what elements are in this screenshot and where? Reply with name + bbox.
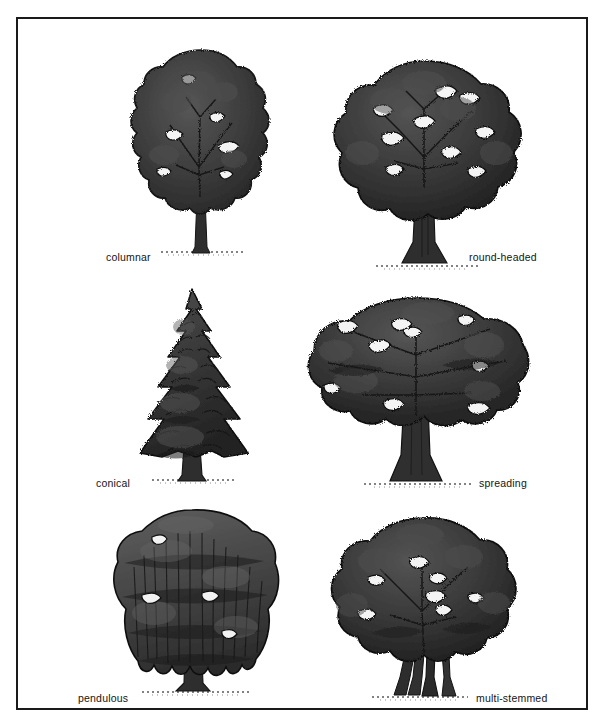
- tree-figure-multi-stemmed: [314, 515, 536, 707]
- tree-label-round-headed: round-headed: [469, 251, 537, 263]
- tree-label-columnar: columnar: [106, 251, 151, 263]
- conical-tree-drawing: [96, 287, 292, 495]
- spreading-tree-drawing: [292, 295, 532, 497]
- crown-foliage: [332, 518, 516, 661]
- tree-figure-round-headed: [318, 57, 536, 277]
- ground-line: [372, 697, 468, 700]
- tree-figure-pendulous: [76, 507, 308, 705]
- crown-foliage: [131, 50, 269, 214]
- crown-foliage: [114, 510, 279, 675]
- tree-figure-spreading: [292, 295, 532, 497]
- crown-foliage: [308, 298, 528, 426]
- round-headed-tree-drawing: [318, 57, 536, 277]
- tree-label-pendulous: pendulous: [78, 692, 128, 704]
- ground-line: [364, 484, 472, 487]
- multi-stemmed-tree-drawing: [314, 515, 536, 707]
- tree-figure-conical: [96, 287, 292, 495]
- tree-label-conical: conical: [96, 477, 130, 489]
- columnar-tree-drawing: [106, 47, 296, 275]
- crown-foliage: [334, 61, 521, 220]
- pendulous-tree-drawing: [76, 507, 308, 705]
- tree-label-multi-stemmed: multi-stemmed: [476, 692, 547, 704]
- illustration-page: columnar: [0, 0, 603, 724]
- tree-figure-columnar: [106, 47, 296, 275]
- ground-line: [142, 692, 252, 695]
- ground-line: [376, 266, 478, 269]
- plate-border-frame: columnar: [16, 17, 588, 710]
- crown-foliage: [140, 289, 248, 459]
- tree-label-spreading: spreading: [479, 477, 527, 489]
